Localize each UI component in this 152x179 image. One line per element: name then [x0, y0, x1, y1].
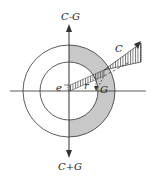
rotor-force-diagram: C-G C+G C e r G	[0, 0, 152, 179]
label-top-arrow: C-G	[61, 11, 80, 22]
label-force: C	[115, 43, 123, 54]
label-gravity: G	[100, 84, 108, 95]
arrow-up-icon	[66, 24, 72, 32]
label-eccentricity: e	[56, 82, 62, 93]
arrow-down-icon	[66, 150, 72, 158]
gravity-arrow-icon	[94, 86, 98, 91]
label-bottom-arrow: C+G	[58, 161, 82, 172]
